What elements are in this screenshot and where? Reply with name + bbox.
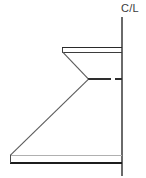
lower-taper-line <box>10 79 88 155</box>
beam-half-section-drawing <box>0 0 146 178</box>
upper-taper-line <box>63 52 89 79</box>
centerline-label: C/L <box>121 2 139 14</box>
engineering-drawing-canvas: C/L <box>0 0 146 178</box>
